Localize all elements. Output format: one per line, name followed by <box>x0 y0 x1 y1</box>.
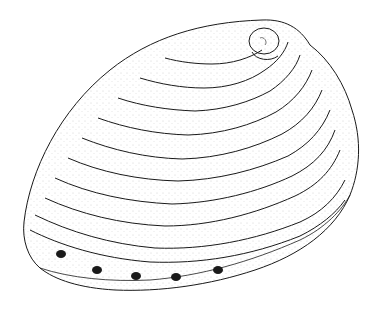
pore-3 <box>131 272 141 280</box>
pore-5 <box>213 266 223 274</box>
stipple-shading <box>24 20 359 290</box>
pore-4 <box>171 273 181 281</box>
pore-1 <box>56 250 66 258</box>
abalone-shell-drawing <box>0 0 384 315</box>
illustration: Line drawing of an abalone shell <box>0 0 384 315</box>
pore-2 <box>92 266 102 274</box>
